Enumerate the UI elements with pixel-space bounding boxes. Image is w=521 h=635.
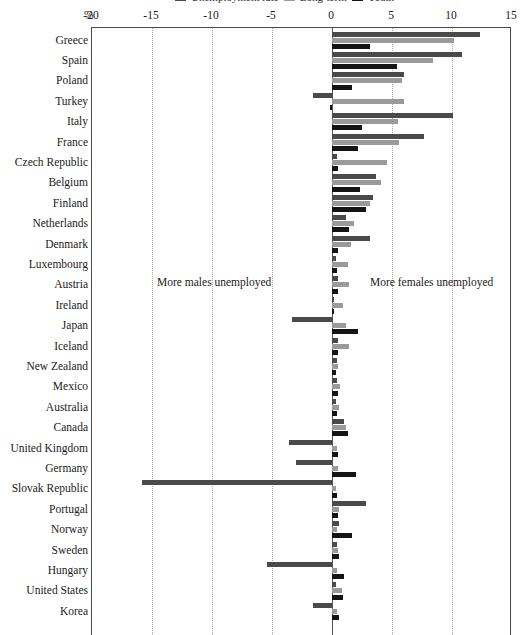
bar: [332, 446, 337, 451]
y-axis-label: Japan: [0, 319, 88, 331]
y-axis-label: Korea: [0, 605, 88, 617]
bar-group: [92, 419, 511, 436]
bar: [313, 603, 332, 608]
bar: [332, 64, 397, 69]
bar: [332, 160, 387, 165]
bar: [332, 99, 404, 104]
y-axis-label: Mexico: [0, 380, 88, 392]
bar: [332, 521, 339, 526]
bar-group: [92, 297, 511, 314]
bar: [332, 419, 344, 424]
y-axis-label: Hungary: [0, 564, 88, 576]
bar: [332, 52, 462, 57]
legend-swatch: [175, 0, 186, 1]
legend-label: Unemployment rate: [191, 0, 279, 3]
bar: [332, 358, 337, 363]
bar: [332, 609, 337, 614]
bar-group: [92, 32, 511, 49]
bar: [332, 391, 338, 396]
bar: [142, 480, 332, 485]
bar-group: [92, 582, 511, 599]
bar-group: [92, 460, 511, 477]
x-tick-label: -10: [203, 9, 218, 21]
x-tick-label: -15: [143, 9, 158, 21]
bar-group: [92, 154, 511, 171]
y-axis-label: Czech Republic: [0, 156, 88, 168]
x-tick-label: 15: [505, 9, 517, 21]
bar: [332, 399, 336, 404]
bar-group: [92, 440, 511, 457]
bar: [332, 119, 398, 124]
y-axis-label: Slovak Republic: [0, 482, 88, 494]
bar: [332, 309, 334, 314]
bar-group: [92, 378, 511, 395]
annotation-more-males: More males unemployed: [157, 276, 271, 288]
annotation-more-females: More females unemployed: [370, 276, 493, 288]
bar: [332, 378, 337, 383]
bar: [332, 527, 337, 532]
bar-group: [92, 174, 511, 191]
y-axis-label: Luxembourg: [0, 258, 88, 270]
y-axis-label: United Kingdom: [0, 442, 88, 454]
x-tick-mark: [272, 27, 273, 28]
bar: [332, 472, 356, 477]
bar: [332, 513, 338, 518]
bar-group: [92, 338, 511, 355]
y-axis-label: Sweden: [0, 544, 88, 556]
bar: [332, 338, 338, 343]
bar-group: [92, 480, 511, 497]
y-axis-label: Italy: [0, 115, 88, 127]
y-axis-label: France: [0, 136, 88, 148]
bar: [332, 72, 404, 77]
bar-group: [92, 93, 511, 110]
bar: [332, 588, 342, 593]
bar: [313, 93, 332, 98]
bar-group: [92, 236, 511, 253]
bar: [332, 242, 351, 247]
y-axis-label: Turkey: [0, 95, 88, 107]
bar: [332, 615, 339, 620]
bar-group: [92, 521, 511, 538]
bar: [332, 85, 352, 90]
bar: [332, 554, 339, 559]
bar: [332, 323, 346, 328]
x-tick-mark: [332, 27, 333, 28]
bar: [332, 297, 334, 302]
y-axis-label: Portugal: [0, 503, 88, 515]
y-axis-label: Ireland: [0, 299, 88, 311]
y-axis-label: Poland: [0, 74, 88, 86]
bar: [332, 582, 336, 587]
bar: [332, 58, 433, 63]
bar: [292, 317, 332, 322]
bar: [332, 276, 338, 281]
plot-area: More males unemployed More females unemp…: [91, 27, 511, 635]
bar: [332, 166, 338, 171]
y-axis-label: Spain: [0, 54, 88, 66]
bar-group: [92, 317, 511, 334]
bar: [332, 425, 346, 430]
y-axis-label: Denmark: [0, 238, 88, 250]
y-axis-label: Finland: [0, 197, 88, 209]
y-axis-label: United States: [0, 584, 88, 596]
bar-group: [92, 134, 511, 151]
bar: [332, 411, 337, 416]
y-axis-label: New Zealand: [0, 360, 88, 372]
bar: [332, 154, 337, 159]
bar-group: [92, 358, 511, 375]
x-axis-labels: % -20-15-10-5051015: [0, 8, 521, 26]
bar-group: [92, 562, 511, 579]
bar: [332, 350, 338, 355]
bar: [332, 493, 337, 498]
bar: [332, 113, 453, 118]
bar: [332, 38, 454, 43]
bar: [332, 140, 399, 145]
y-axis-label: Australia: [0, 401, 88, 413]
chart-page: Unemployment rateLong-termYouth % -20-15…: [0, 0, 521, 635]
bar: [332, 195, 373, 200]
bar: [332, 501, 366, 506]
bar: [332, 289, 338, 294]
bar-group: [92, 113, 511, 130]
bar: [332, 78, 402, 83]
bar: [332, 329, 358, 334]
bar: [296, 460, 332, 465]
